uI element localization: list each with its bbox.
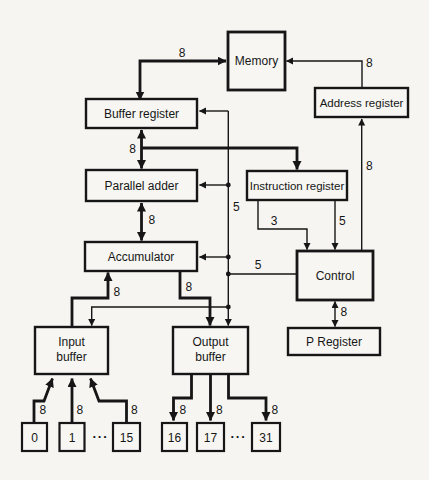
- bus-label-out31: 8: [272, 403, 279, 417]
- node-buffer-register: Buffer register: [86, 99, 197, 128]
- junction-dot: [226, 272, 231, 277]
- output-port-17: 17: [204, 431, 218, 445]
- bus-label-mem-buffer: 8: [179, 46, 186, 60]
- output-ports: 16 17 ··· 31: [162, 423, 280, 451]
- node-input-buffer: Input buffer: [35, 327, 108, 374]
- bus-label-ctrl-vertical: 5: [233, 200, 240, 214]
- bus-label-mem-address: 8: [366, 56, 373, 70]
- bus-label-out16: 8: [180, 403, 187, 417]
- output-port-31: 31: [259, 431, 273, 445]
- diagram-canvas: Memory Buffer register Address register …: [0, 0, 429, 480]
- edge-input-buffer-accumulator: [72, 273, 108, 328]
- p-register-label: P Register: [306, 335, 362, 349]
- edge-accumulator-output-buffer: [180, 271, 210, 326]
- instruction-register-label: Instruction register: [250, 180, 345, 192]
- edge-memory-buffer-register: [140, 61, 226, 100]
- node-p-register: P Register: [288, 328, 380, 355]
- edge-bus-instruction-register: [142, 148, 298, 170]
- node-parallel-adder: Parallel adder: [86, 170, 197, 201]
- control-label: Control: [316, 269, 355, 283]
- node-accumulator: Accumulator: [85, 242, 197, 271]
- bus-label-adder-acc: 8: [149, 213, 156, 227]
- input-buffer-label-line1: Input: [58, 335, 85, 349]
- output-ports-ellipsis: ···: [231, 429, 247, 444]
- bus-label-buffer-adder: 8: [129, 142, 136, 156]
- bus-label-ir-3: 3: [271, 214, 278, 228]
- junction-dot: [226, 183, 231, 188]
- parallel-adder-label: Parallel adder: [104, 179, 178, 193]
- node-output-buffer: Output buffer: [173, 327, 248, 374]
- node-instruction-register: Instruction register: [247, 171, 347, 200]
- bus-label-in1: 8: [77, 403, 84, 417]
- buffer-register-label: Buffer register: [104, 107, 179, 121]
- input-port-0: 0: [31, 431, 38, 445]
- input-buffer-label-line2: buffer: [56, 350, 86, 364]
- edge-port15-input-buffer: [91, 379, 127, 424]
- output-buffer-label-line1: Output: [192, 335, 229, 349]
- bus-label-ctrl-p: 8: [341, 305, 348, 319]
- bus-label-in0: 8: [40, 403, 47, 417]
- edge-output-buffer-port31: [229, 374, 267, 421]
- bus-label-out17: 8: [216, 403, 223, 417]
- output-buffer-label-line2: buffer: [195, 350, 225, 364]
- bus-label-in15: 8: [131, 403, 138, 417]
- output-port-16: 16: [168, 431, 182, 445]
- bus-label-addr-up: 8: [366, 159, 373, 173]
- input-port-15: 15: [120, 431, 134, 445]
- node-address-register: Address register: [315, 88, 408, 117]
- memory-label: Memory: [235, 54, 278, 68]
- input-ports-ellipsis: ···: [93, 429, 109, 444]
- node-memory: Memory: [228, 32, 285, 90]
- input-ports: 0 1 ··· 15: [22, 423, 140, 451]
- block-diagram: Memory Buffer register Address register …: [0, 0, 429, 480]
- edge-address-register-memory: [287, 61, 363, 88]
- bus-label-ir-5: 5: [339, 214, 346, 228]
- node-control: Control: [297, 251, 373, 300]
- junction-dot: [226, 255, 231, 260]
- address-register-label: Address register: [320, 97, 404, 109]
- edge-control-input-buffer: [92, 307, 229, 326]
- input-port-1: 1: [69, 431, 76, 445]
- edge-ir-control-3: [258, 200, 307, 250]
- bus-label-acc-in: 8: [114, 285, 121, 299]
- bus-label-acc-out: 8: [186, 280, 193, 294]
- bus-label-ctrl-to-control: 5: [255, 258, 262, 272]
- accumulator-label: Accumulator: [108, 250, 175, 264]
- junction-dot: [226, 305, 231, 310]
